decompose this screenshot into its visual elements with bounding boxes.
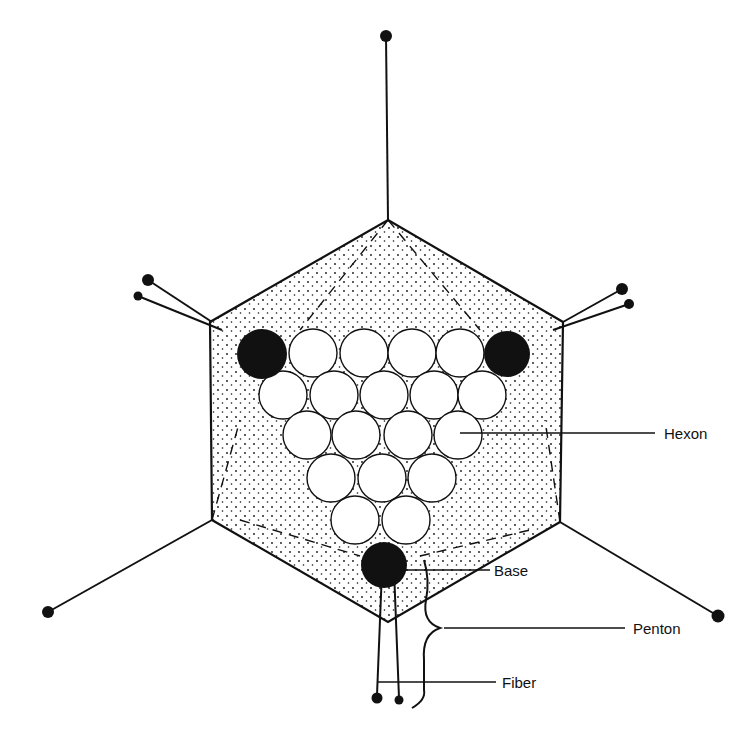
label-base: Base	[494, 562, 528, 579]
label-penton: Penton	[633, 620, 681, 637]
adenovirus-diagram: Hexon Base Penton Fiber	[0, 0, 756, 739]
label-hexon: Hexon	[664, 425, 707, 442]
label-fiber: Fiber	[502, 674, 536, 691]
